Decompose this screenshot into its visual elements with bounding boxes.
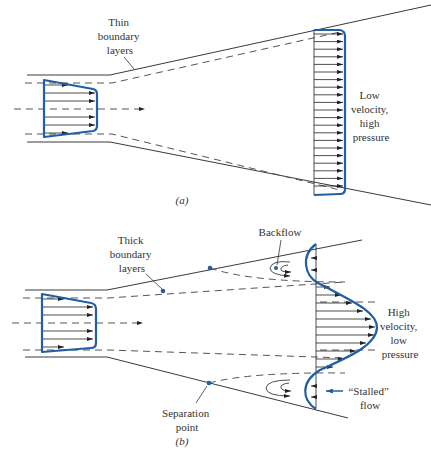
diffuser-bottom-wall bbox=[27, 142, 431, 205]
separation-point-top bbox=[208, 266, 213, 271]
caption-a: (a) bbox=[176, 194, 189, 207]
backflow-label: Backflow bbox=[259, 226, 302, 238]
separation-point-bottom bbox=[207, 381, 212, 386]
separation-leader bbox=[196, 386, 207, 403]
thin-boundary-leader bbox=[124, 57, 134, 69]
backflow-dot bbox=[274, 266, 278, 270]
high-velocity-label: High velocity, low pressure bbox=[380, 306, 420, 360]
separation-streamline-bottom bbox=[209, 373, 345, 383]
diffuser-flow-diagram: Thin boundary layers Low velocity, high … bbox=[0, 0, 431, 454]
caption-b: (b) bbox=[176, 435, 189, 448]
thin-boundary-label: Thin boundary layers bbox=[98, 16, 142, 56]
thick-boundary-dot bbox=[161, 289, 166, 294]
outlet-velocity-profile bbox=[314, 30, 345, 195]
stalled-flow-label: “Stalled” flow bbox=[348, 385, 391, 411]
low-velocity-label: Low velocity, high pressure bbox=[351, 89, 391, 143]
backflow-eddy-top bbox=[270, 262, 291, 276]
separation-point-label: Separation point bbox=[162, 407, 212, 433]
thick-boundary-label: Thick boundary layers bbox=[110, 234, 154, 274]
panel-b: Thick boundary layers Backflow High velo… bbox=[12, 226, 420, 448]
separation-streamline-top bbox=[210, 268, 345, 282]
backflow-leader bbox=[277, 240, 281, 265]
backflow-eddy-bottom bbox=[266, 380, 291, 396]
diffuser-top-wall bbox=[27, 5, 431, 75]
panel-a: Thin boundary layers Low velocity, high … bbox=[14, 5, 431, 207]
